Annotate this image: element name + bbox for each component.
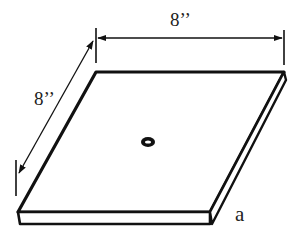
- top-dimension: [96, 28, 284, 65]
- plate-drawing: [0, 0, 306, 241]
- plate: [18, 72, 286, 224]
- top-dimension-label: 8’’: [170, 10, 191, 29]
- center-hole: [141, 137, 155, 147]
- plate-diagram: 8’’ 8’’ a: [0, 0, 306, 241]
- figure-label: a: [235, 204, 244, 225]
- left-dimension-label: 8’’: [34, 89, 55, 108]
